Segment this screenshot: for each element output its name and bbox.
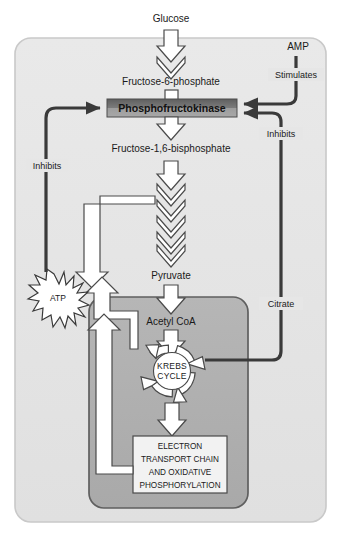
label-glucose: Glucose	[153, 13, 190, 24]
phosphofructokinase-box: Phosphofructokinase	[107, 99, 237, 117]
label-fructose-6-phosphate: Fructose-6-phosphate	[122, 76, 220, 87]
label-etc-line2: TRANSPORT CHAIN	[141, 455, 219, 464]
label-etc-line4: PHOSPHORYLATION	[139, 481, 220, 490]
label-fructose-1-6-bisphosphate: Fructose-1,6-bisphosphate	[112, 143, 231, 154]
label-acetyl-coa: Acetyl CoA	[146, 316, 196, 327]
label-krebs-line2: CYCLE	[157, 371, 186, 381]
label-amp: AMP	[287, 41, 309, 52]
electron-transport-chain-box: ELECTRON TRANSPORT CHAIN AND OXIDATIVE P…	[133, 436, 227, 493]
glycolysis-regulation-diagram: Glucose Fructose-6-phosphate Phosphofruc…	[0, 0, 341, 535]
label-stimulates-amp: Stimulates	[275, 70, 318, 80]
label-krebs-line1: KREBS	[157, 361, 187, 371]
label-phosphofructokinase: Phosphofructokinase	[118, 102, 226, 114]
diagram-canvas: Glucose Fructose-6-phosphate Phosphofruc…	[0, 0, 341, 535]
label-inhibits-atp: Inhibits	[33, 161, 62, 171]
label-etc-line1: ELECTRON	[158, 442, 203, 451]
label-pyruvate: Pyruvate	[151, 270, 191, 281]
label-etc-line3: AND OXIDATIVE	[149, 468, 212, 477]
label-inhibits-citrate: Inhibits	[267, 129, 296, 139]
label-citrate: Citrate	[268, 299, 295, 309]
label-atp: ATP	[50, 293, 66, 303]
